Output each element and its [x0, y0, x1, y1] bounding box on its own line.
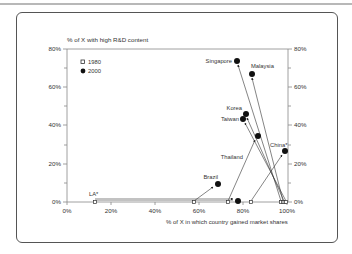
point-1980-brazil — [193, 201, 196, 204]
point-2000-brazil — [215, 181, 221, 187]
legend-2000: 2000 — [88, 68, 101, 74]
legend-circle-icon — [81, 69, 86, 74]
x-tick-0: 0% — [63, 207, 72, 214]
y-right-tick-20: 20% — [294, 160, 307, 167]
point-1980-la — [94, 201, 97, 204]
left-y-axis — [63, 49, 67, 202]
point-2000-thailand — [255, 133, 261, 139]
y-axis-label: % of X with high R&D content — [67, 36, 148, 43]
legend: 1980 2000 — [81, 59, 101, 74]
point-2000-taiwan — [240, 116, 246, 122]
x-tick-100: 100% — [279, 207, 295, 214]
left-y-ticks: 80% 60% 40% 20% 0% — [49, 45, 62, 205]
series-2000 — [215, 58, 288, 204]
y-tick-0: 0% — [52, 198, 61, 205]
point-1980-thailand — [227, 201, 230, 204]
y-tick-80: 80% — [49, 45, 62, 52]
x-axis-label: % of X in which country gained market sh… — [166, 219, 288, 225]
label-korea: Korea — [227, 105, 243, 111]
point-2000-china — [282, 148, 288, 154]
label-taiwan: Taiwan — [221, 116, 239, 122]
label-la: LA* — [89, 191, 99, 197]
x-tick-60: 60% — [193, 207, 206, 214]
point-2000-korea — [243, 111, 249, 117]
point-1980-taiwan — [285, 201, 288, 204]
x-axis — [67, 202, 288, 205]
y-right-tick-60: 60% — [294, 83, 307, 90]
y-right-tick-80: 80% — [294, 45, 307, 52]
y-tick-60: 60% — [49, 83, 62, 90]
y-right-tick-40: 40% — [294, 121, 307, 128]
right-y-axis — [288, 49, 292, 202]
right-y-ticks: 80% 60% 40% 20% 0% — [294, 45, 307, 205]
point-1980-china — [250, 201, 253, 204]
label-malaysia: Malaysia — [251, 63, 275, 69]
y-tick-20: 20% — [49, 160, 62, 167]
point-2000-malaysia — [249, 71, 255, 77]
point-2000-singapore — [234, 58, 240, 64]
y-tick-40: 40% — [49, 121, 62, 128]
legend-square-icon — [81, 60, 85, 64]
legend-1980: 1980 — [88, 59, 101, 65]
x-tick-80: 80% — [237, 207, 250, 214]
country-labels: Singapore Malaysia Korea Taiwan Thailand… — [89, 58, 288, 197]
y-right-tick-0: 0% — [294, 198, 303, 205]
trajectory-arrows — [95, 65, 286, 201]
chart: % of X with high R&D content 80% 60% 40%… — [0, 0, 352, 254]
x-ticks: 0% 20% 40% 60% 80% 100% — [63, 207, 296, 214]
label-brazil: Brazil — [204, 174, 219, 180]
x-tick-20: 20% — [105, 207, 118, 214]
label-thailand: Thailand — [221, 154, 243, 160]
label-singapore: Singapore — [206, 58, 232, 64]
point-2000-la — [235, 198, 241, 204]
x-tick-40: 40% — [149, 207, 162, 214]
label-china: China* — [270, 142, 288, 148]
